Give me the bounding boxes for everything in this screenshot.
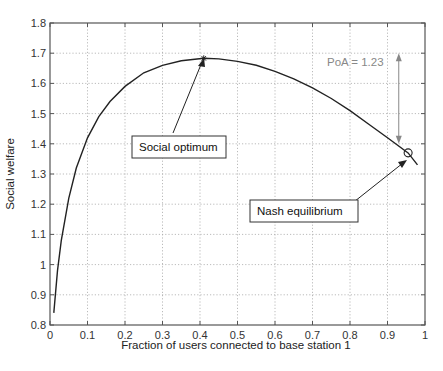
y-tick-label: 1.2: [31, 198, 46, 210]
y-tick-label: 1.4: [31, 138, 46, 150]
social-optimum-arrow: [173, 58, 205, 133]
x-tick-label: 0.1: [80, 329, 95, 341]
social-optimum-callout: Social optimum: [132, 136, 226, 158]
y-tick-label: 1: [40, 259, 46, 271]
poa-arrow: [396, 53, 402, 144]
svg-text:Social optimum: Social optimum: [139, 141, 218, 153]
x-tick-label: 1: [422, 329, 428, 341]
x-tick-label: 0: [47, 329, 53, 341]
nash-equilibrium-callout: Nash equilibrium: [250, 200, 358, 222]
y-tick-label: 1.3: [31, 168, 46, 180]
y-tick-label: 1.1: [31, 228, 46, 240]
y-tick-label: 1.7: [31, 47, 46, 59]
welfare-curve: [54, 58, 418, 313]
poa-label: PoA = 1.23: [327, 56, 384, 68]
y-axis-label: Social welfare: [4, 138, 16, 210]
y-tick-label: 0.8: [31, 319, 46, 331]
social-welfare-chart: 00.10.20.30.40.50.60.70.80.910.80.911.11…: [0, 0, 443, 371]
grid-lines: [50, 23, 425, 325]
y-tick-label: 0.9: [31, 289, 46, 301]
svg-text:Nash equilibrium: Nash equilibrium: [257, 205, 343, 217]
x-axis-label: Fraction of users connected to base stat…: [121, 339, 351, 351]
y-tick-label: 1.8: [31, 17, 46, 29]
y-tick-label: 1.5: [31, 108, 46, 120]
y-tick-label: 1.6: [31, 77, 46, 89]
x-tick-label: 0.9: [380, 329, 395, 341]
